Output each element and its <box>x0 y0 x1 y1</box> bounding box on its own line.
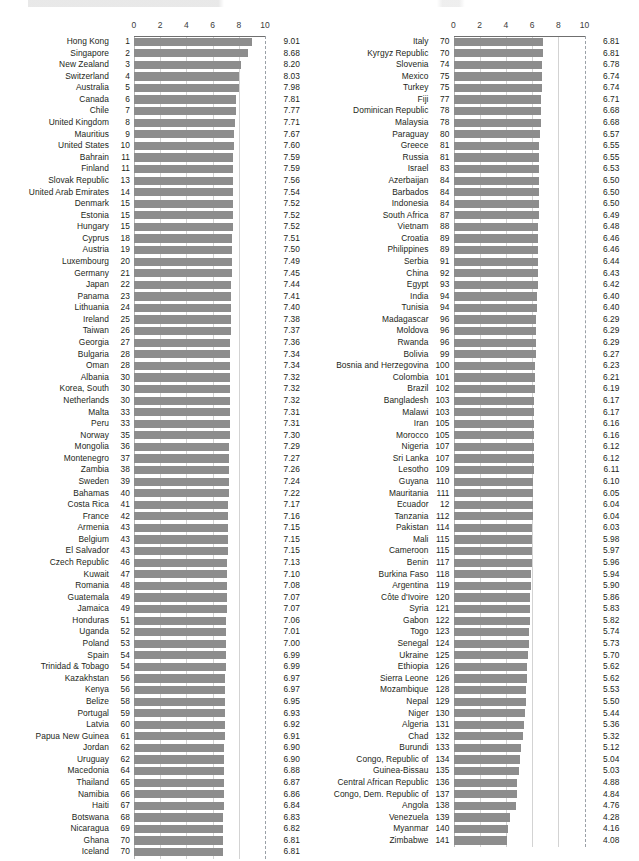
rank-label: 47 <box>112 569 130 581</box>
rank-label: 40 <box>112 488 130 500</box>
chart-row: Cyprus187.51 <box>0 233 320 245</box>
country-label: Benin <box>407 557 429 569</box>
country-label: Estonia <box>81 210 109 222</box>
chart-row: Pakistan1146.03 <box>320 522 639 534</box>
value-label: 6.78 <box>590 59 620 71</box>
value-label: 6.23 <box>590 360 620 372</box>
value-label: 7.07 <box>270 592 300 604</box>
bar <box>454 721 524 729</box>
x-axis-tick-label: 2 <box>158 20 163 30</box>
chart-row: India946.40 <box>320 291 639 303</box>
value-label: 8.03 <box>270 71 300 83</box>
country-label: Greece <box>401 140 429 152</box>
rank-label: 117 <box>432 557 450 569</box>
country-label: Zambia <box>81 464 109 476</box>
country-label: Bolivia <box>403 349 428 361</box>
rank-label: 133 <box>432 742 450 754</box>
country-label: Cameroon <box>389 545 429 557</box>
chart-row: Kenya566.97 <box>0 684 320 696</box>
country-label: Indonesia <box>392 198 429 210</box>
bar <box>134 420 230 428</box>
bar <box>454 547 532 555</box>
value-label: 7.45 <box>270 268 300 280</box>
rank-label: 70 <box>432 36 450 48</box>
rank-label: 84 <box>432 175 450 187</box>
chart-row: Togo1235.74 <box>320 626 639 638</box>
bar <box>134 755 224 763</box>
rank-label: 60 <box>112 719 130 731</box>
country-label: Central African Republic <box>337 777 428 789</box>
rank-label: 15 <box>112 198 130 210</box>
value-label: 7.77 <box>270 105 300 117</box>
rank-label: 77 <box>432 94 450 106</box>
rank-label: 130 <box>432 708 450 720</box>
rank-label: 33 <box>112 407 130 419</box>
rank-label: 102 <box>432 383 450 395</box>
rank-label: 126 <box>432 673 450 685</box>
value-label: 7.54 <box>270 187 300 199</box>
country-label: Montenegro <box>64 453 109 465</box>
rank-label: 19 <box>112 244 130 256</box>
chart-row: Kazakhstan566.97 <box>0 673 320 685</box>
rank-label: 49 <box>112 592 130 604</box>
value-label: 6.83 <box>270 812 300 824</box>
value-label: 6.46 <box>590 244 620 256</box>
rank-label: 70 <box>112 846 130 858</box>
rank-label: 78 <box>432 117 450 129</box>
rank-label: 58 <box>112 696 130 708</box>
chart-row: Mozambique1285.53 <box>320 684 639 696</box>
country-label: Burundi <box>399 742 428 754</box>
country-label: Malaysia <box>395 117 428 129</box>
country-label: Peru <box>91 418 109 430</box>
chart-row: Ghana706.81 <box>0 835 320 847</box>
bar <box>134 802 224 810</box>
bar <box>134 107 236 115</box>
country-label: Austria <box>83 244 109 256</box>
rank-label: 54 <box>112 661 130 673</box>
rank-label: 96 <box>432 337 450 349</box>
bar <box>454 767 520 775</box>
value-label: 7.40 <box>270 302 300 314</box>
rank-label: 46 <box>112 557 130 569</box>
value-label: 7.56 <box>270 175 300 187</box>
chart-row: Thailand656.87 <box>0 777 320 789</box>
rank-label: 124 <box>432 638 450 650</box>
chart-row: Gabon1225.82 <box>320 615 639 627</box>
country-label: Netherlands <box>63 395 109 407</box>
bar <box>454 755 520 763</box>
bar <box>454 84 542 92</box>
chart-row: Paraguay806.57 <box>320 129 639 141</box>
chart-row: Bahrain117.59 <box>0 152 320 164</box>
country-label: Portugal <box>77 708 109 720</box>
bar <box>454 269 538 277</box>
value-label: 7.60 <box>270 140 300 152</box>
country-label: Venezuela <box>389 812 429 824</box>
rank-label: 52 <box>112 626 130 638</box>
chart-row: Slovenia746.78 <box>320 59 639 71</box>
value-label: 6.29 <box>590 337 620 349</box>
rank-label: 96 <box>432 314 450 326</box>
bar <box>134 709 225 717</box>
country-label: India <box>410 291 428 303</box>
rank-label: 109 <box>432 464 450 476</box>
bar <box>454 408 535 416</box>
country-label: Honduras <box>72 615 109 627</box>
chart-row: Israel836.53 <box>320 163 639 175</box>
value-label: 7.26 <box>270 464 300 476</box>
country-label: Croatia <box>401 233 428 245</box>
country-label: Namibia <box>78 789 109 801</box>
value-label: 5.98 <box>590 534 620 546</box>
bar <box>454 790 517 798</box>
chart-row: Mali1155.98 <box>320 534 639 546</box>
rank-label: 120 <box>432 592 450 604</box>
country-label: Singapore <box>70 48 109 60</box>
value-label: 6.16 <box>590 430 620 442</box>
value-label: 6.40 <box>590 291 620 303</box>
value-label: 7.32 <box>270 372 300 384</box>
country-label: Malta <box>88 407 109 419</box>
rank-label: 137 <box>432 789 450 801</box>
rank-label: 75 <box>432 71 450 83</box>
country-label: Bahamas <box>73 488 109 500</box>
chart-row: Lesotho1096.11 <box>320 464 639 476</box>
rank-label: 96 <box>432 325 450 337</box>
